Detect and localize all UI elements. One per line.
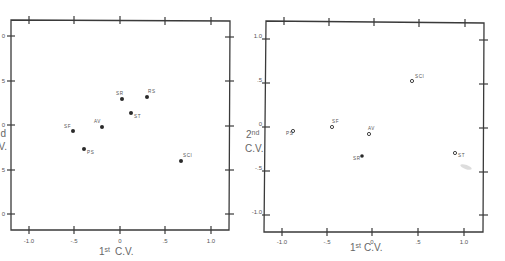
point-label: SR bbox=[353, 156, 361, 161]
data-point-SR bbox=[120, 97, 124, 101]
right-xtick-label: .5 bbox=[415, 239, 421, 245]
left-data-points: SR RS ST AV SF PS SCI bbox=[64, 89, 192, 163]
left-plot-frame bbox=[11, 20, 230, 230]
left-xtick-label: 1.0 bbox=[207, 238, 216, 244]
point-label: SF bbox=[332, 119, 339, 124]
right-ytick-label: -1.0 bbox=[252, 209, 263, 215]
point-label: ST bbox=[458, 153, 465, 158]
point-label: PS bbox=[87, 150, 94, 155]
data-point-PS bbox=[82, 147, 86, 151]
data-point-AV bbox=[367, 132, 370, 135]
data-point-SF bbox=[330, 125, 333, 128]
right-xtick-label: -1.0 bbox=[277, 239, 288, 245]
left-ytick-label: 0 bbox=[2, 211, 6, 217]
left-ylabel-fragment: V. bbox=[0, 141, 7, 152]
left-xtick-label: -.5 bbox=[70, 238, 78, 244]
scan-smudge bbox=[460, 163, 473, 171]
left-ytick-label: 5 bbox=[2, 167, 6, 173]
data-point-SCI bbox=[410, 79, 413, 82]
right-ytick-label: 0 bbox=[259, 121, 263, 127]
right-xlabel: 1stC.V. bbox=[350, 242, 383, 253]
left-xtick-label: -1.0 bbox=[24, 238, 35, 244]
point-label: SR bbox=[116, 91, 124, 96]
point-label: ST bbox=[134, 114, 141, 119]
data-point-ST bbox=[453, 151, 456, 154]
right-data-points: SCI SF PS AV SR ST bbox=[286, 74, 465, 161]
point-label: AV bbox=[94, 119, 101, 124]
data-point-SF bbox=[71, 129, 75, 133]
data-point-SCI bbox=[179, 159, 183, 163]
point-label: SCI bbox=[183, 153, 192, 158]
right-ytick-label: -.5 bbox=[255, 165, 263, 171]
right-xtick-label: 1.0 bbox=[460, 239, 469, 245]
point-label: RS bbox=[148, 89, 156, 94]
left-xtick-label: 0 bbox=[118, 238, 122, 244]
left-xtick-label: .5 bbox=[162, 238, 168, 244]
right-ytick-label: .5 bbox=[257, 77, 263, 83]
point-label: SCI bbox=[415, 74, 424, 79]
left-xlabel: 1stC.V. bbox=[99, 246, 134, 257]
point-label: AV bbox=[368, 126, 375, 131]
right-ytick-label: 1.0 bbox=[254, 33, 263, 39]
point-label: SF bbox=[64, 124, 71, 129]
left-ytick-label: 5 bbox=[2, 78, 6, 84]
left-ylabel-fragment: d bbox=[0, 128, 6, 139]
data-point-AV bbox=[100, 125, 104, 129]
figure-canvas: -1.0 -.5 0 .5 1.0 0 5 0 5 0 d V. 1stC.V.… bbox=[0, 0, 505, 261]
point-label: PS bbox=[286, 131, 293, 136]
left-scatter-plot: -1.0 -.5 0 .5 1.0 0 5 0 5 0 d V. 1stC.V.… bbox=[0, 16, 234, 257]
right-xtick-label: -.5 bbox=[323, 239, 331, 245]
data-point-ST bbox=[129, 111, 133, 115]
data-point-SR bbox=[360, 154, 364, 158]
right-ylabel: 2nd bbox=[246, 129, 259, 140]
data-point-RS bbox=[145, 95, 149, 99]
left-ytick-label: 0 bbox=[2, 33, 6, 39]
right-ylabel-line2: C.V. bbox=[245, 143, 264, 154]
right-scatter-plot: -1.0 -.5 0 .5 1.0 1.0 .5 0 -.5 -1.0 2nd … bbox=[245, 17, 488, 253]
